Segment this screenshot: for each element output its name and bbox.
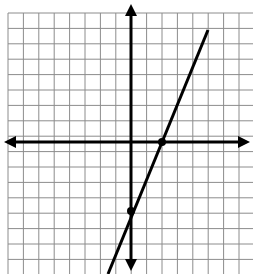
coordinate-graph-figure (0, 0, 253, 274)
plotted-point (158, 138, 166, 146)
plot-background (0, 0, 253, 274)
coordinate-plane-svg (0, 0, 253, 274)
plotted-point (127, 207, 135, 215)
